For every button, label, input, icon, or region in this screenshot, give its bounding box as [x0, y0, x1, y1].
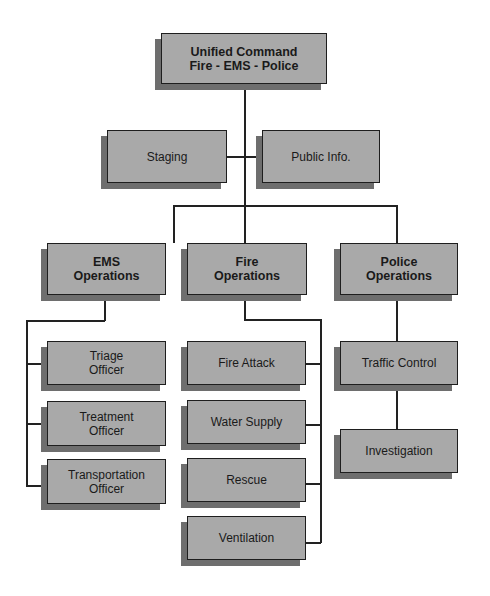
connector-police-down	[396, 295, 398, 341]
node-fire-operations: Fire Operations	[187, 243, 307, 295]
connector-ems-treatment	[26, 423, 47, 425]
connector-ems-transport	[26, 485, 47, 487]
connector-ems-v	[26, 320, 28, 486]
node-water-supply: Water Supply	[187, 400, 306, 444]
node-public-info: Public Info.	[262, 130, 380, 183]
connector-ems-up	[173, 205, 175, 243]
connector-root-down	[244, 84, 246, 205]
node-police-operations: Police Operations	[340, 243, 458, 295]
connector-staging	[227, 156, 262, 158]
node-transportation-officer: Transportation Officer	[47, 459, 166, 504]
connector-ems-down	[104, 295, 106, 321]
node-unified-command: Unified Command Fire - EMS - Police	[161, 33, 327, 84]
connector-fire-v	[320, 319, 322, 543]
node-ems-operations: EMS Operations	[47, 243, 166, 295]
node-fire-attack: Fire Attack	[187, 341, 306, 385]
connector-fire-rescue	[306, 483, 321, 485]
node-treatment-officer: Treatment Officer	[47, 401, 166, 446]
connector-ems-triage	[26, 363, 47, 365]
connector-police-up	[396, 205, 398, 243]
node-investigation: Investigation	[340, 429, 458, 473]
connector-traffic-investigation	[396, 385, 398, 429]
connector-fire-water	[306, 424, 321, 426]
node-staging: Staging	[107, 130, 227, 183]
node-traffic-control: Traffic Control	[340, 341, 458, 385]
node-ventilation: Ventilation	[187, 516, 306, 560]
node-triage-officer: Triage Officer	[47, 341, 166, 385]
connector-fire-attack	[306, 363, 321, 365]
connector-sections-horizontal	[173, 205, 397, 207]
connector-ems-h	[26, 320, 105, 322]
connector-fire-down	[244, 295, 246, 320]
connector-fire-vent	[306, 542, 321, 544]
node-rescue: Rescue	[187, 458, 306, 502]
connector-fire-h	[244, 319, 321, 321]
connector-fire-up	[244, 205, 246, 243]
